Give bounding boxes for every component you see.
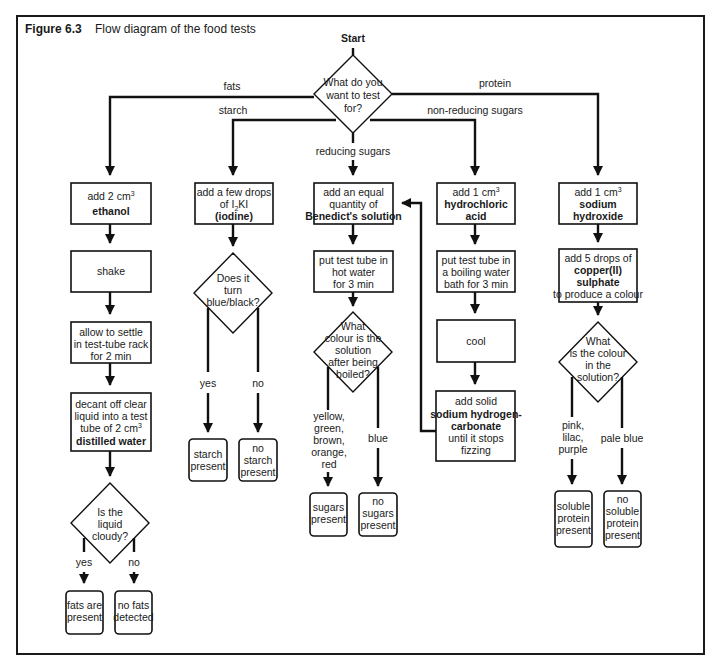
svg-text:no fats: no fats — [118, 599, 150, 611]
svg-text:no: no — [128, 556, 140, 568]
svg-text:yes: yes — [200, 377, 216, 389]
starch-no-branch: no — [252, 308, 264, 432]
result-no-fats-detected: no fats detected — [113, 591, 153, 634]
svg-text:sugars: sugars — [313, 501, 345, 513]
reducing-step-benedicts: add an equal quantity of Benedict's solu… — [305, 183, 401, 224]
fats-step-ethanol: add 2 cm3 ethanol — [71, 183, 151, 224]
svg-text:present: present — [240, 466, 275, 478]
svg-text:blue/black?: blue/black? — [206, 296, 259, 308]
svg-text:add an equal: add an equal — [323, 186, 384, 198]
svg-text:add 1 cm3: add 1 cm3 — [574, 186, 621, 198]
reducing-step-hot-water: put test tube in hot water for 3 min — [314, 251, 393, 292]
svg-text:soluble: soluble — [606, 505, 639, 517]
decision-what-to-test: What do you want to test for? — [314, 55, 392, 133]
result-starch-present: starch present — [189, 439, 227, 481]
fats-step-decant: decant off clear liquid into a test tube… — [71, 393, 151, 451]
svg-text:pale blue: pale blue — [601, 432, 644, 444]
flow-diagram: Start What do you want to test for? fats… — [0, 0, 713, 662]
svg-text:present: present — [67, 611, 102, 623]
svg-text:present: present — [190, 460, 225, 472]
svg-text:add 2 cm3: add 2 cm3 — [87, 190, 134, 202]
non-reducing-step-hcl: add 1 cm3 hydrochloric acid — [437, 183, 515, 224]
svg-text:fizzing: fizzing — [461, 444, 491, 456]
svg-text:quantity of: quantity of — [329, 198, 378, 210]
result-soluble-protein-present: soluble protein present — [555, 491, 592, 547]
svg-text:present: present — [556, 524, 591, 536]
svg-text:What do you: What do you — [324, 76, 383, 88]
svg-text:cloudy?: cloudy? — [92, 530, 128, 542]
svg-text:sodium hydrogen-: sodium hydrogen- — [430, 408, 522, 420]
branch-fats: fats — [110, 80, 314, 175]
svg-text:Does it: Does it — [217, 272, 250, 284]
svg-text:What: What — [586, 335, 611, 347]
decision-protein-colour: What is the colour in the solution? — [559, 322, 637, 402]
svg-text:acid: acid — [465, 210, 486, 222]
decision-colour-after-boiling: What colour is the solution after being … — [314, 312, 392, 392]
svg-text:is the colour: is the colour — [570, 347, 627, 359]
svg-text:Is the: Is the — [97, 506, 123, 518]
loop-back-to-benedicts-arrow — [402, 203, 436, 431]
svg-text:red: red — [321, 458, 336, 470]
svg-text:blue: blue — [368, 432, 388, 444]
svg-text:to produce a colour: to produce a colour — [553, 288, 643, 300]
svg-text:cool: cool — [466, 335, 485, 347]
result-no-soluble-protein-present: no soluble protein present — [604, 491, 641, 547]
non-reducing-step-cool: cool — [437, 320, 515, 362]
svg-text:fats are: fats are — [67, 599, 102, 611]
protein-positive-branch: pink, lilac, purple — [558, 377, 587, 484]
svg-text:no: no — [252, 442, 264, 454]
svg-text:lilac,: lilac, — [562, 431, 583, 443]
svg-text:add solid: add solid — [455, 395, 497, 407]
svg-text:starch: starch — [219, 104, 248, 116]
svg-text:until it stops: until it stops — [448, 432, 503, 444]
svg-text:hot water: hot water — [332, 266, 376, 278]
svg-text:fats: fats — [224, 80, 241, 92]
svg-text:brown,: brown, — [313, 434, 345, 446]
svg-text:for?: for? — [344, 102, 362, 114]
svg-text:reducing sugars: reducing sugars — [316, 145, 391, 157]
fats-step-shake: shake — [71, 251, 151, 292]
svg-text:colour is the: colour is the — [325, 332, 382, 344]
fats-yes-branch: yes — [76, 538, 92, 583]
result-no-starch-present: no starch present — [239, 439, 277, 481]
svg-text:sodium: sodium — [579, 198, 616, 210]
svg-text:green,: green, — [314, 422, 344, 434]
svg-text:for 3 min: for 3 min — [333, 278, 374, 290]
svg-text:after being: after being — [328, 356, 378, 368]
svg-text:add 1 cm3: add 1 cm3 — [452, 186, 499, 198]
svg-text:bath for 3 min: bath for 3 min — [444, 278, 508, 290]
svg-text:solution: solution — [335, 344, 371, 356]
branch-non-reducing-sugars: non-reducing sugars — [370, 104, 523, 175]
svg-text:hydrochloric: hydrochloric — [444, 198, 508, 210]
svg-text:turn: turn — [224, 284, 242, 296]
svg-text:detected: detected — [113, 611, 153, 623]
svg-text:for 2 min: for 2 min — [91, 350, 132, 362]
svg-text:orange,: orange, — [311, 446, 347, 458]
svg-text:protein: protein — [557, 512, 589, 524]
svg-text:tube of 2 cm3: tube of 2 cm3 — [80, 422, 142, 434]
svg-text:allow to settle: allow to settle — [79, 326, 143, 338]
result-fats-present: fats are present — [66, 591, 103, 634]
start-label: Start — [341, 32, 365, 44]
svg-text:no: no — [372, 495, 384, 507]
svg-text:non-reducing sugars: non-reducing sugars — [427, 104, 523, 116]
svg-text:decant off clear: decant off clear — [75, 398, 147, 410]
svg-text:hydroxide: hydroxide — [573, 210, 623, 222]
svg-text:distilled water: distilled water — [76, 435, 146, 447]
svg-text:carbonate: carbonate — [451, 420, 501, 432]
decision-blue-black: Does it turn blue/black? — [194, 253, 272, 333]
svg-text:put test tube in: put test tube in — [319, 254, 388, 266]
svg-text:soluble: soluble — [557, 500, 590, 512]
fats-step-settle: allow to settle in test-tube rack for 2 … — [71, 322, 151, 363]
branch-starch: starch — [219, 104, 336, 175]
non-reducing-step-boiling-bath: put test tube in a boiling water bath fo… — [437, 251, 515, 292]
decision-liquid-cloudy: Is the liquid cloudy? — [71, 483, 149, 563]
svg-text:add a few drops: add a few drops — [197, 186, 272, 198]
svg-text:starch: starch — [194, 448, 223, 460]
protein-step-sodium-hydroxide: add 1 cm3 sodium hydroxide — [559, 183, 637, 224]
svg-text:Benedict's solution: Benedict's solution — [305, 210, 401, 222]
svg-text:What: What — [341, 320, 366, 332]
non-reducing-step-sodium-hydrogencarbonate: add solid sodium hydrogen- carbonate unt… — [430, 391, 522, 461]
svg-text:shake: shake — [97, 265, 125, 277]
branch-protein: protein — [392, 77, 598, 175]
